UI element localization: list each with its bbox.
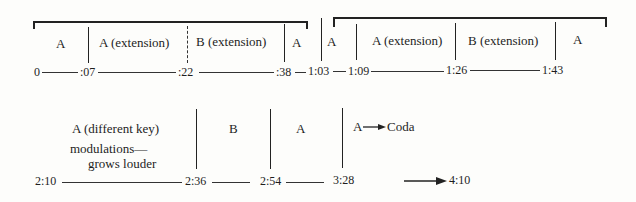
timeline-row2-segment [286, 182, 324, 183]
time-marker: 2:54 [258, 175, 283, 188]
arrow-icon [0, 0, 636, 202]
time-marker: 2:10 [33, 175, 58, 188]
timeline-row2-segment [212, 182, 250, 183]
timeline-row2-segment [62, 182, 182, 183]
time-marker: 4:10 [447, 174, 472, 187]
time-marker: 2:36 [183, 175, 208, 188]
time-marker: 3:28 [331, 174, 356, 187]
coda-label: Coda [387, 120, 414, 134]
